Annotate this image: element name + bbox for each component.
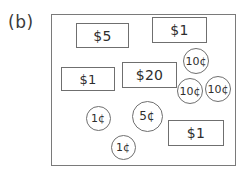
- coin-denomination-label: 1¢: [91, 112, 105, 123]
- coin[interactable]: 10¢: [183, 48, 209, 74]
- bill-denomination-label: $20: [136, 68, 164, 82]
- coin-denomination-label: 1¢: [116, 141, 130, 152]
- bill[interactable]: $1: [168, 120, 224, 146]
- coin[interactable]: 1¢: [111, 135, 136, 160]
- panel-label: (b): [8, 14, 34, 31]
- coin[interactable]: 5¢: [132, 101, 163, 132]
- bill[interactable]: $5: [76, 23, 129, 48]
- coin-denomination-label: 5¢: [139, 110, 154, 122]
- coin[interactable]: 1¢: [86, 106, 111, 131]
- coin-denomination-label: 10¢: [186, 55, 207, 66]
- coin[interactable]: 10¢: [205, 76, 231, 102]
- bill[interactable]: $1: [152, 17, 207, 43]
- coin[interactable]: 10¢: [177, 78, 203, 104]
- figure-canvas: (b) $5$1$1$20$1 10¢10¢10¢1¢5¢1¢: [0, 0, 246, 176]
- bill-denomination-label: $1: [79, 72, 96, 85]
- bill-denomination-label: $5: [93, 28, 111, 42]
- bill-denomination-label: $1: [187, 126, 205, 140]
- bill-denomination-label: $1: [170, 23, 188, 37]
- coin-denomination-label: 10¢: [180, 85, 201, 96]
- bill[interactable]: $20: [122, 62, 177, 88]
- bill[interactable]: $1: [61, 67, 115, 91]
- coin-denomination-label: 10¢: [208, 83, 229, 94]
